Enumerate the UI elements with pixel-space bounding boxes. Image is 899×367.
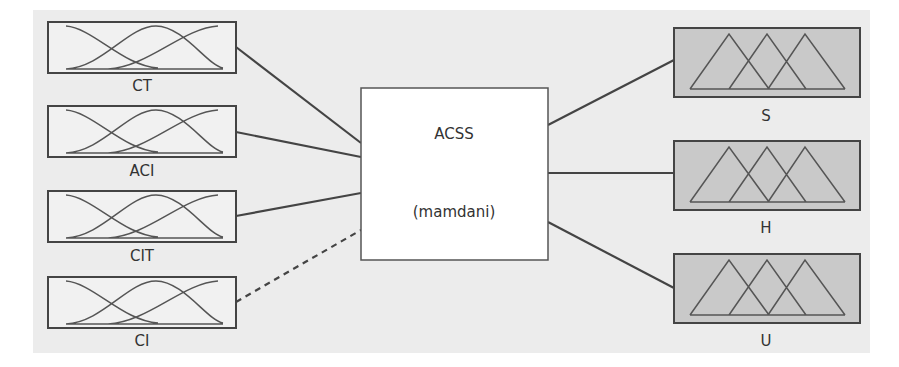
input-label-ci: CI — [135, 332, 150, 350]
output-h — [674, 141, 860, 210]
input-aci — [48, 106, 236, 157]
input-ci — [48, 277, 236, 328]
fuzzy-system-diagram: CT ACI CIT CI ACSS (mamdani) S — [0, 0, 899, 367]
output-label-u: U — [761, 332, 772, 350]
output-label-h: H — [760, 219, 771, 237]
engine-title: ACSS — [434, 125, 474, 143]
input-ct — [48, 22, 236, 73]
engine-subtitle: (mamdani) — [413, 203, 496, 221]
input-label-ct: CT — [132, 77, 152, 95]
output-u — [674, 254, 860, 323]
input-label-cit: CIT — [130, 247, 155, 265]
output-label-s: S — [761, 107, 771, 125]
input-cit — [48, 191, 236, 242]
output-s — [674, 28, 860, 97]
inference-engine-box: ACSS (mamdani) — [361, 88, 548, 260]
input-label-aci: ACI — [130, 162, 155, 180]
